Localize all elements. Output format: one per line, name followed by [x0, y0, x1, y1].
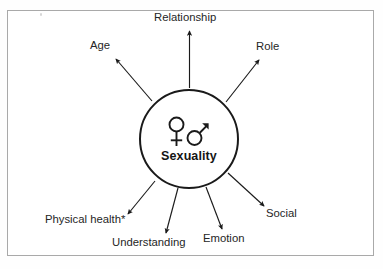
node-label-social: Social [266, 208, 297, 220]
node-label-emotion: Emotion [203, 233, 244, 245]
arrow-to-age [116, 59, 152, 101]
mars-symbol [188, 125, 208, 145]
arrow-to-physical-health [128, 181, 155, 214]
venus-symbol [170, 118, 184, 147]
arrow-to-social [228, 173, 264, 206]
central-node-label: Sexuality [161, 150, 217, 163]
node-label-understanding: Understanding [112, 237, 185, 249]
central-node-sexuality: Sexuality [139, 89, 239, 189]
arrow-to-understanding [166, 188, 178, 233]
node-label-physical-health: Physical health* [45, 214, 125, 226]
arrow-to-emotion [206, 187, 222, 229]
node-label-relationship: Relationship [154, 12, 216, 24]
arrow-to-role [226, 60, 259, 102]
node-label-role: Role [256, 41, 279, 53]
gender-symbols-icon [161, 115, 217, 149]
diagram-canvas: Sexuality Relationship Age Role Physical… [0, 0, 383, 269]
node-label-age: Age [90, 40, 110, 52]
